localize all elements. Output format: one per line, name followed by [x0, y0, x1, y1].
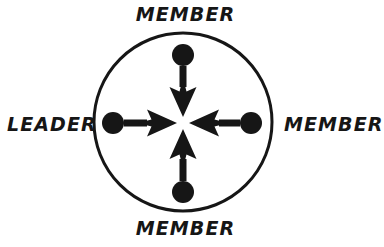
node-label-right: MEMBER — [284, 115, 384, 134]
node-right-group — [189, 110, 262, 137]
node-dot-right — [240, 112, 262, 134]
node-left-group — [102, 110, 177, 137]
arrow-top-to-center — [170, 66, 197, 117]
node-dot-top — [172, 44, 194, 66]
arrow-right-to-center — [189, 110, 240, 137]
node-dot-left — [102, 112, 124, 134]
node-label-left: LEADER — [7, 115, 97, 134]
arrow-left-to-center — [124, 110, 177, 137]
node-bottom-group — [170, 129, 197, 203]
node-label-bottom: MEMBER — [0, 219, 371, 238]
arrow-bottom-to-center — [170, 129, 197, 181]
node-dot-bottom — [172, 181, 194, 203]
node-top-group — [170, 44, 197, 117]
node-label-top: MEMBER — [0, 5, 371, 24]
